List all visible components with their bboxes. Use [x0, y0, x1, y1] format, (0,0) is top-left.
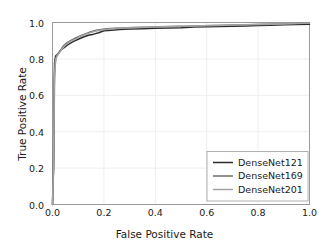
roc-curve-figure: DenseNet121DenseNet169DenseNet201 False … — [0, 0, 329, 251]
y-tick-label: 0.6 — [14, 90, 44, 101]
legend-label-2: DenseNet201 — [238, 184, 303, 195]
x-tick-label: 1.0 — [302, 207, 317, 218]
x-axis-label: False Positive Rate — [0, 228, 329, 240]
y-tick-label: 0.0 — [14, 199, 44, 210]
y-tick-label: 0.4 — [14, 126, 44, 137]
legend-box: DenseNet121DenseNet169DenseNet201 — [207, 152, 308, 202]
y-tick-label: 1.0 — [14, 17, 44, 28]
x-tick-label: 0.6 — [199, 207, 214, 218]
x-tick-label: 0.0 — [45, 207, 60, 218]
legend-label-1: DenseNet169 — [238, 170, 303, 181]
legend-label-0: DenseNet121 — [238, 157, 303, 168]
x-tick-label: 0.4 — [148, 207, 163, 218]
x-tick-label: 0.8 — [251, 207, 266, 218]
x-tick-label: 0.2 — [96, 207, 111, 218]
y-tick-label: 0.2 — [14, 163, 44, 174]
y-tick-label: 0.8 — [14, 53, 44, 64]
